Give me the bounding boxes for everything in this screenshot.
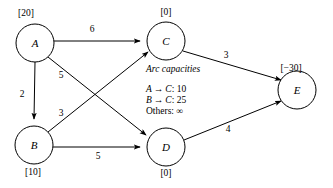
node-b-label: B	[31, 139, 38, 151]
edge-label-a-to-b: 2	[20, 90, 25, 100]
capacity-row-a-c-value: : 10	[172, 84, 187, 94]
edge-d-to-e	[184, 101, 281, 140]
supply-label-d: [0]	[160, 169, 171, 179]
network-diagram-canvas: A C E B D [20] [0] [−30] [10] [0] 6 2	[0, 0, 333, 188]
capacity-row-a-c-from: A	[146, 84, 152, 94]
node-c-label: C	[162, 35, 170, 47]
edge-a-to-b	[34, 62, 35, 119]
node-a[interactable]: A	[16, 24, 54, 62]
node-a-label: A	[31, 37, 39, 49]
edge-label-a-to-d: 5	[59, 71, 64, 81]
supply-label-e: [−30]	[280, 64, 301, 74]
capacity-row-b-c: B→C: 25	[146, 95, 186, 106]
edge-label-b-to-c: 3	[59, 109, 64, 119]
node-d-label: D	[161, 141, 170, 153]
node-e[interactable]: E	[278, 71, 316, 109]
capacity-row-b-c-from: B	[146, 95, 152, 105]
capacity-row-a-c: A→C: 10	[146, 84, 186, 95]
edge-label-a-to-c: 6	[90, 25, 95, 35]
node-d[interactable]: D	[147, 128, 185, 166]
edge-label-c-to-e: 3	[224, 51, 229, 61]
capacity-row-a-c-arrow: →	[152, 84, 166, 94]
capacity-row-b-c-value: : 25	[172, 95, 187, 105]
supply-label-c: [0]	[160, 8, 171, 18]
supply-label-b: [10]	[25, 168, 41, 178]
node-c[interactable]: C	[147, 22, 185, 60]
capacity-row-b-c-arrow: →	[152, 95, 166, 105]
capacity-row-others: Others: ∞	[146, 106, 186, 117]
arc-capacities-title: Arc capacities	[146, 65, 200, 75]
node-e-label: E	[293, 84, 301, 96]
node-b[interactable]: B	[15, 126, 53, 164]
arc-capacities-list: A→C: 10 B→C: 25 Others: ∞	[146, 84, 186, 117]
edge-a-to-d	[48, 57, 146, 135]
edge-b-to-c	[48, 52, 148, 132]
supply-label-a: [20]	[18, 9, 34, 19]
edge-label-d-to-e: 4	[226, 125, 231, 135]
edge-label-b-to-d: 5	[96, 152, 101, 162]
